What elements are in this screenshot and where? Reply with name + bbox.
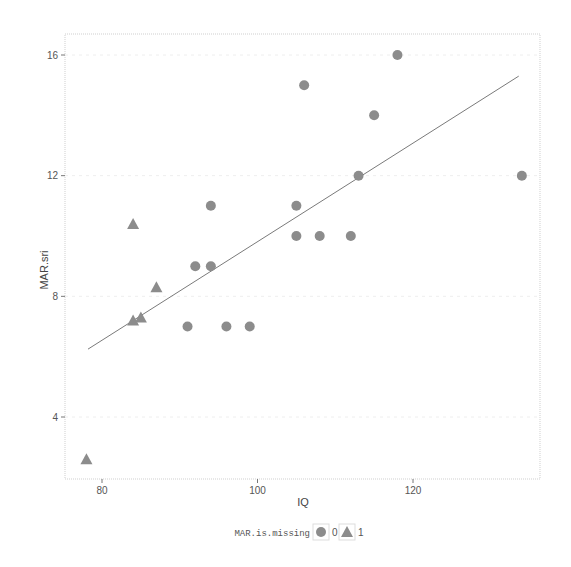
legend-label-1: 1 <box>358 527 364 538</box>
x-tick-label: 80 <box>96 485 108 496</box>
legend-label-0: 0 <box>332 527 338 538</box>
circle-point <box>221 322 231 332</box>
circle-point <box>183 322 193 332</box>
circle-point <box>291 231 301 241</box>
x-axis-title: IQ <box>297 496 309 508</box>
circle-point <box>315 231 325 241</box>
circle-point <box>354 171 364 181</box>
scatter-chart: 481216 80100120 IQ MAR.sri MAR.is.missin… <box>0 0 571 567</box>
circle-point <box>245 322 255 332</box>
y-tick-label: 8 <box>52 291 58 302</box>
circle-point <box>206 261 216 271</box>
circle-point <box>190 261 200 271</box>
x-tick-label: 120 <box>405 485 422 496</box>
y-axis: 481216 <box>47 50 65 423</box>
plot-panel <box>65 34 540 479</box>
circle-point <box>369 110 379 120</box>
y-tick-label: 12 <box>47 170 59 181</box>
legend-circle-icon <box>316 527 326 537</box>
y-axis-title: MAR.sri <box>38 250 50 289</box>
x-tick-label: 100 <box>249 485 266 496</box>
legend: MAR.is.missing 0 1 <box>234 524 364 540</box>
circle-point <box>291 201 301 211</box>
y-tick-label: 16 <box>47 50 59 61</box>
y-tick-label: 4 <box>52 412 58 423</box>
circle-point <box>206 201 216 211</box>
circle-point <box>517 171 527 181</box>
x-axis: 80100120 <box>96 479 421 496</box>
circle-point <box>346 231 356 241</box>
circle-point <box>299 80 309 90</box>
legend-title: MAR.is.missing <box>234 529 310 539</box>
circle-point <box>392 50 402 60</box>
